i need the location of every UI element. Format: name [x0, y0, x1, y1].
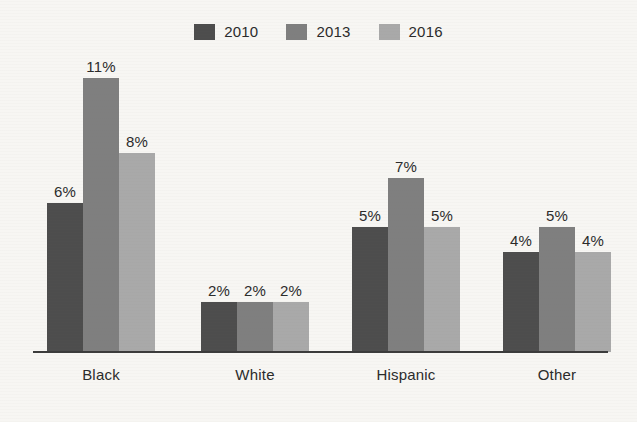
- bar-value-label: 4%: [563, 232, 623, 249]
- bar-rect: [273, 302, 309, 352]
- bar-hispanic-2016: 5%: [424, 70, 460, 352]
- bar-other-2013: 5%: [539, 70, 575, 352]
- bar-rect: [503, 252, 539, 352]
- bar-white-2016: 2%: [273, 70, 309, 352]
- bar-rect: [575, 252, 611, 352]
- bar-rect: [83, 78, 119, 352]
- bar-black-2013: 11%: [83, 70, 119, 352]
- bar-rect: [237, 302, 273, 352]
- bar-rect: [119, 153, 155, 352]
- category-label-white: White: [199, 366, 311, 383]
- bar-value-label: 5%: [412, 207, 472, 224]
- bar-group-white: 2% 2% 2%: [199, 70, 311, 352]
- category-label-black: Black: [45, 366, 157, 383]
- bar-white-2013: 2%: [237, 70, 273, 352]
- plot-area: 6% 11% 8% 2% 2% 2%: [0, 0, 637, 422]
- category-label-other: Other: [501, 366, 613, 383]
- bar-group-other: 4% 5% 4%: [501, 70, 613, 352]
- bar-hispanic-2010: 5%: [352, 70, 388, 352]
- bar-rect: [388, 178, 424, 352]
- category-label-hispanic: Hispanic: [350, 366, 462, 383]
- x-axis-line: [33, 351, 608, 353]
- bar-other-2016: 4%: [575, 70, 611, 352]
- bar-group-hispanic: 5% 7% 5%: [350, 70, 462, 352]
- bar-white-2010: 2%: [201, 70, 237, 352]
- bar-rect: [424, 227, 460, 352]
- bar-rect: [47, 203, 83, 352]
- bar-rect: [201, 302, 237, 352]
- bar-value-label: 2%: [261, 282, 321, 299]
- bar-value-label: 8%: [107, 133, 167, 150]
- bar-rect: [352, 227, 388, 352]
- bar-black-2010: 6%: [47, 70, 83, 352]
- bar-group-black: 6% 11% 8%: [45, 70, 157, 352]
- bar-chart: 2010 2013 2016 6% 11% 8%: [0, 0, 637, 422]
- bar-black-2016: 8%: [119, 70, 155, 352]
